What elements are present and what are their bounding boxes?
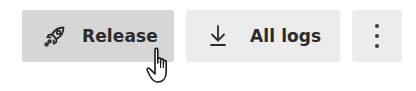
all-logs-button-label: All logs xyxy=(250,26,321,46)
kebab-dot xyxy=(375,44,379,48)
release-button[interactable]: Release xyxy=(22,10,174,62)
obscured-text-fragment xyxy=(36,78,156,90)
more-options-button[interactable] xyxy=(352,10,402,62)
kebab-menu-icon xyxy=(375,24,379,48)
action-toolbar: Release All logs xyxy=(0,0,416,91)
kebab-dot xyxy=(375,34,379,38)
rocket-icon xyxy=(42,23,68,49)
all-logs-button[interactable]: All logs xyxy=(186,10,340,62)
release-button-label: Release xyxy=(82,26,158,46)
download-icon xyxy=(208,24,228,48)
kebab-dot xyxy=(375,24,379,28)
